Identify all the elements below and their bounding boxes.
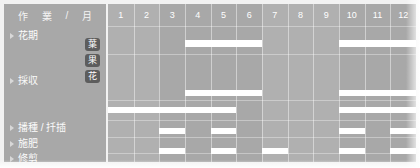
crop-calendar-chart: 作 業 / 月 花期 採収 葉 果 花 播種 / 扦插 施肥 修剪	[0, 0, 420, 168]
month-gridline-9	[313, 4, 314, 162]
month-shade-4	[185, 4, 211, 162]
triangle-bullet-icon	[10, 78, 14, 84]
badge-fruit[interactable]: 果	[85, 54, 100, 67]
activity-bar[interactable]	[185, 40, 262, 47]
row-gridline-1	[108, 54, 416, 55]
row-gridline-3	[108, 120, 416, 121]
month-gridline-10	[339, 4, 340, 162]
month-gridline-4	[185, 4, 186, 162]
month-gridline-7	[262, 4, 263, 162]
activity-bar[interactable]	[108, 107, 236, 113]
badge-flower[interactable]: 花	[85, 70, 100, 83]
activity-bar[interactable]	[339, 107, 416, 113]
row-label-flowering[interactable]: 花期	[10, 31, 38, 41]
activity-bar[interactable]	[211, 148, 237, 154]
activity-bar[interactable]	[159, 128, 185, 134]
row-label-fertilizing[interactable]: 施肥	[10, 139, 38, 149]
month-shade-6	[236, 4, 262, 162]
header-part-1: 業	[42, 8, 52, 23]
month-header-3[interactable]: 3	[159, 4, 185, 26]
month-header-2[interactable]: 2	[134, 4, 160, 26]
activity-bar[interactable]	[339, 128, 365, 134]
row-label-text: 修剪	[18, 154, 38, 164]
month-gridline-5	[211, 4, 212, 162]
row-label-text: 花期	[18, 31, 38, 41]
header-part-2: /	[66, 10, 69, 21]
month-gridline-3	[159, 4, 160, 162]
header-part-0: 作	[18, 8, 28, 23]
activity-bar[interactable]	[390, 148, 416, 154]
row-gridline-4	[108, 137, 416, 138]
activity-bar[interactable]	[339, 148, 365, 154]
calendar-grid: 123456789101112	[108, 4, 416, 162]
activity-bar[interactable]	[262, 148, 288, 154]
activity-bar[interactable]	[211, 128, 237, 134]
row-label-sowing-cutting[interactable]: 播種 / 扦插	[10, 123, 66, 133]
month-gridline-6	[236, 4, 237, 162]
month-header-5[interactable]: 5	[211, 4, 237, 26]
header-part-3: 月	[82, 8, 92, 23]
month-shade-3	[159, 4, 185, 162]
month-header-8[interactable]: 8	[288, 4, 314, 26]
month-shade-5	[211, 4, 237, 162]
activity-bar[interactable]	[185, 90, 262, 96]
month-header-9[interactable]: 9	[313, 4, 339, 26]
month-gridline-12	[390, 4, 391, 162]
row-label-text: 播種 / 扦插	[18, 123, 66, 133]
triangle-bullet-icon	[10, 141, 14, 147]
row-gridline-2	[108, 100, 416, 101]
month-header-11[interactable]: 11	[365, 4, 391, 26]
activity-bar[interactable]	[390, 128, 416, 134]
row-gridline-0	[108, 26, 416, 27]
activity-bar[interactable]	[159, 148, 185, 154]
month-gridline-8	[288, 4, 289, 162]
month-header-7[interactable]: 7	[262, 4, 288, 26]
activity-bar[interactable]	[339, 40, 416, 47]
month-gridline-2	[134, 4, 135, 162]
month-header-12[interactable]: 12	[390, 4, 416, 26]
row-label-pruning[interactable]: 修剪	[10, 154, 38, 164]
month-gridline-11	[365, 4, 366, 162]
month-header-6[interactable]: 6	[236, 4, 262, 26]
activity-bar[interactable]	[339, 90, 416, 96]
row-label-text: 施肥	[18, 139, 38, 149]
badge-leaf[interactable]: 葉	[85, 38, 100, 51]
row-label-harvest[interactable]: 採収	[10, 76, 38, 86]
month-shade-10	[339, 4, 365, 162]
row-label-column: 作 業 / 月 花期 採収 葉 果 花 播種 / 扦插 施肥 修剪	[4, 4, 106, 162]
month-header-1[interactable]: 1	[108, 4, 134, 26]
row-label-text: 採収	[18, 76, 38, 86]
harvest-part-badges: 葉 果 花	[85, 38, 101, 83]
month-header-10[interactable]: 10	[339, 4, 365, 26]
triangle-bullet-icon	[10, 33, 14, 39]
triangle-bullet-icon	[10, 125, 14, 131]
triangle-bullet-icon	[10, 156, 14, 162]
month-header-4[interactable]: 4	[185, 4, 211, 26]
month-shade-11	[365, 4, 391, 162]
month-shade-12	[390, 4, 416, 162]
table-header-operation-month: 作 業 / 月	[4, 4, 106, 26]
